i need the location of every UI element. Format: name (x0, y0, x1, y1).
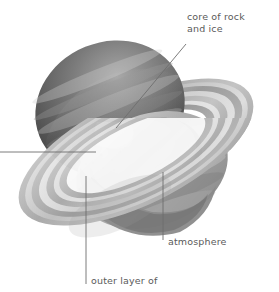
label-core-of-rock-and-ice: core of rock and ice (187, 11, 245, 34)
figure-page: core of rock and ice atmosphere outer la… (0, 0, 279, 292)
saturn-cutaway-illustration (0, 0, 279, 292)
label-atmosphere: atmosphere (168, 236, 227, 248)
label-outer-layer-of: outer layer of (91, 275, 157, 287)
